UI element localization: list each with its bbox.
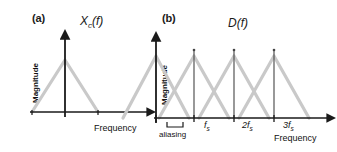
panel-b: (b) D(f) Magnitude Frequency fs 2fs 3fs … bbox=[150, 0, 337, 152]
panel-a-plot-svg bbox=[0, 0, 160, 152]
panel-b-impulse-head-fs bbox=[193, 49, 196, 52]
panel-b-impulse-head-3fs bbox=[273, 49, 276, 52]
panel-a: (a) Xc(f) Magnitude Frequency bbox=[0, 0, 160, 152]
panel-b-aliasing-brace bbox=[167, 122, 183, 127]
figure-container: (a) Xc(f) Magnitude Frequency bbox=[0, 0, 337, 152]
panel-b-plot-svg bbox=[150, 0, 337, 152]
panel-b-impulse-head-2fs bbox=[233, 49, 236, 52]
